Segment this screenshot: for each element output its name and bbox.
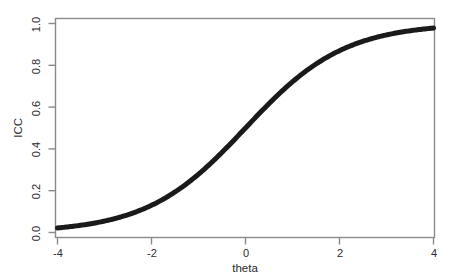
- y-tick-label-3: 0.6: [31, 97, 42, 121]
- plot-area: [0, 0, 455, 279]
- y-tick-label-4: 0.8: [31, 55, 42, 79]
- y-tick-label-0: 0.0: [31, 222, 42, 246]
- icc-plot-svg: [0, 0, 455, 279]
- y-tick-label-5: 1.0: [31, 13, 42, 37]
- x-tick-label-4: 4: [420, 248, 448, 259]
- y-axis-ticks: [49, 24, 56, 233]
- x-axis-title: theta: [205, 263, 285, 275]
- x-tick-label-3: 2: [326, 248, 354, 259]
- y-tick-label-1: 0.2: [31, 180, 42, 204]
- chart-screenshot: 0.0 0.2 0.4 0.6 0.8 1.0 -4 -2 0 2 4 ICC …: [0, 0, 455, 279]
- x-tick-label-0: -4: [44, 248, 72, 259]
- x-tick-label-2: 0: [232, 248, 260, 259]
- x-axis-ticks: [58, 238, 434, 245]
- x-tick-label-1: -2: [138, 248, 166, 259]
- icc-curve-path: [58, 28, 434, 228]
- y-tick-label-2: 0.4: [31, 138, 42, 162]
- y-axis-title: ICC: [13, 108, 25, 148]
